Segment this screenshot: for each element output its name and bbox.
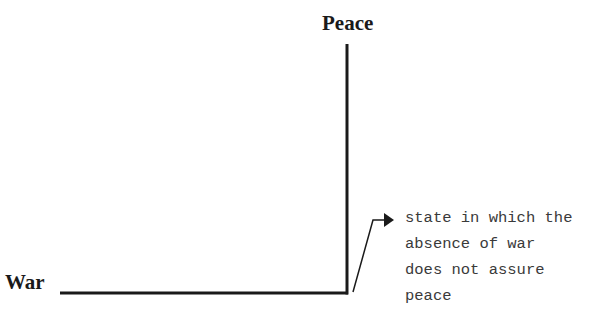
annotation-line: absence of war bbox=[405, 231, 602, 257]
annotation-text: state in which the absence of war does n… bbox=[405, 205, 602, 309]
annotation-pointer-line bbox=[353, 220, 385, 292]
arrow-head-icon bbox=[384, 213, 394, 227]
annotation-line: state in which the bbox=[405, 205, 602, 231]
annotation-line: does not assure bbox=[405, 257, 602, 283]
annotation-line: peace bbox=[405, 283, 602, 309]
